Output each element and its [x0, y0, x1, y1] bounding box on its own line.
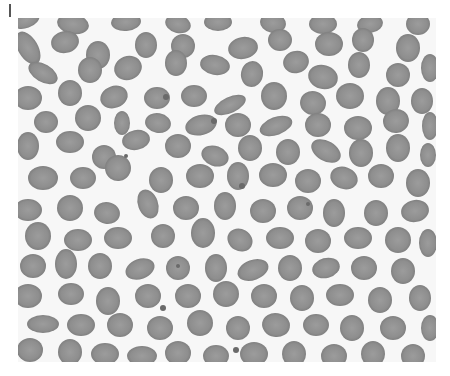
red-blood-cell — [239, 59, 265, 88]
red-blood-cell — [421, 54, 436, 82]
red-blood-cell — [310, 255, 342, 282]
red-blood-cell — [67, 314, 95, 336]
platelet — [306, 202, 310, 206]
platelet — [176, 264, 180, 268]
red-blood-cell — [326, 284, 354, 306]
red-blood-cell — [266, 227, 294, 249]
red-blood-cell — [183, 111, 219, 139]
red-blood-cell — [18, 27, 46, 68]
red-blood-cell — [352, 28, 374, 52]
red-blood-cell — [20, 254, 46, 278]
platelet — [160, 305, 166, 311]
red-blood-cell — [127, 346, 157, 362]
red-blood-cell — [305, 229, 331, 253]
red-blood-cell — [34, 111, 58, 133]
red-blood-cell — [305, 113, 331, 137]
platelet — [211, 118, 217, 124]
red-blood-cell — [135, 32, 157, 58]
red-blood-cell — [287, 196, 313, 220]
red-blood-cell — [386, 63, 410, 87]
red-blood-cell — [238, 135, 262, 161]
red-blood-cell — [198, 53, 231, 78]
red-blood-cell — [380, 316, 406, 340]
red-blood-cell — [181, 85, 207, 107]
red-blood-cell — [368, 164, 394, 188]
red-blood-cell — [411, 88, 433, 114]
red-blood-cell — [104, 227, 132, 249]
red-blood-cell — [240, 342, 268, 362]
red-blood-cell — [307, 134, 345, 167]
red-blood-cell — [290, 285, 314, 311]
red-blood-cell — [235, 255, 272, 285]
red-blood-cell — [421, 315, 436, 341]
red-blood-cell — [385, 227, 411, 253]
red-blood-cell — [111, 52, 146, 84]
red-blood-cell — [75, 105, 101, 131]
red-blood-cell — [175, 284, 201, 308]
red-blood-cell — [173, 196, 199, 220]
red-blood-cell — [278, 255, 302, 281]
red-blood-cell — [323, 199, 345, 227]
red-blood-cell — [214, 192, 236, 220]
red-blood-cell — [18, 284, 42, 308]
red-blood-cell — [97, 82, 131, 112]
red-blood-cell — [419, 229, 436, 257]
red-blood-cell — [110, 18, 141, 32]
red-blood-cell — [223, 224, 257, 256]
red-blood-cell — [309, 18, 337, 34]
red-blood-cell — [268, 29, 292, 51]
red-blood-cell — [260, 311, 292, 339]
red-blood-cell — [276, 139, 300, 165]
platelet — [239, 183, 245, 189]
red-blood-cell — [18, 132, 39, 160]
red-blood-cell — [361, 341, 385, 362]
platelet — [163, 94, 169, 100]
red-blood-cell — [114, 111, 130, 135]
red-blood-cell — [143, 111, 172, 135]
red-blood-cell — [78, 57, 102, 83]
red-blood-cell — [18, 338, 43, 362]
red-blood-cell — [282, 341, 306, 362]
red-blood-cell — [295, 169, 321, 193]
red-blood-cell — [165, 134, 191, 158]
platelet — [233, 347, 239, 353]
red-blood-cell — [250, 199, 276, 223]
red-blood-cell — [92, 200, 121, 226]
red-blood-cell — [205, 254, 227, 282]
red-blood-cell — [96, 287, 120, 315]
red-blood-cell — [251, 284, 277, 308]
red-blood-cell — [344, 116, 372, 140]
red-blood-cell — [27, 315, 59, 333]
red-blood-cell — [225, 113, 251, 137]
red-blood-cell — [281, 48, 312, 76]
red-blood-cell — [386, 134, 410, 162]
red-blood-cell — [187, 310, 213, 336]
red-blood-cell — [191, 218, 215, 248]
red-blood-cell — [420, 143, 436, 167]
red-blood-cell — [163, 18, 193, 36]
red-blood-cell — [406, 18, 430, 35]
red-blood-cell — [147, 316, 173, 340]
red-blood-cell — [364, 200, 388, 226]
red-blood-cell — [165, 50, 187, 76]
red-blood-cell — [327, 163, 361, 193]
red-blood-cell — [58, 80, 82, 106]
red-blood-cell — [28, 166, 58, 190]
red-blood-cell — [64, 229, 92, 251]
red-blood-cell — [58, 283, 84, 305]
top-left-marker — [9, 4, 11, 17]
platelet — [124, 154, 128, 158]
red-blood-cell — [18, 86, 42, 110]
red-blood-cell — [213, 281, 239, 307]
red-blood-cell — [56, 131, 84, 153]
red-blood-cell — [57, 195, 83, 221]
red-blood-cell — [107, 313, 133, 337]
red-blood-cell — [305, 62, 340, 93]
cells-canvas — [18, 18, 436, 362]
red-blood-cell — [396, 34, 420, 62]
red-blood-cell — [303, 314, 329, 336]
red-blood-cell — [88, 253, 112, 279]
red-blood-cell — [348, 52, 370, 78]
red-blood-cell — [227, 162, 249, 190]
red-blood-cell — [315, 32, 343, 56]
